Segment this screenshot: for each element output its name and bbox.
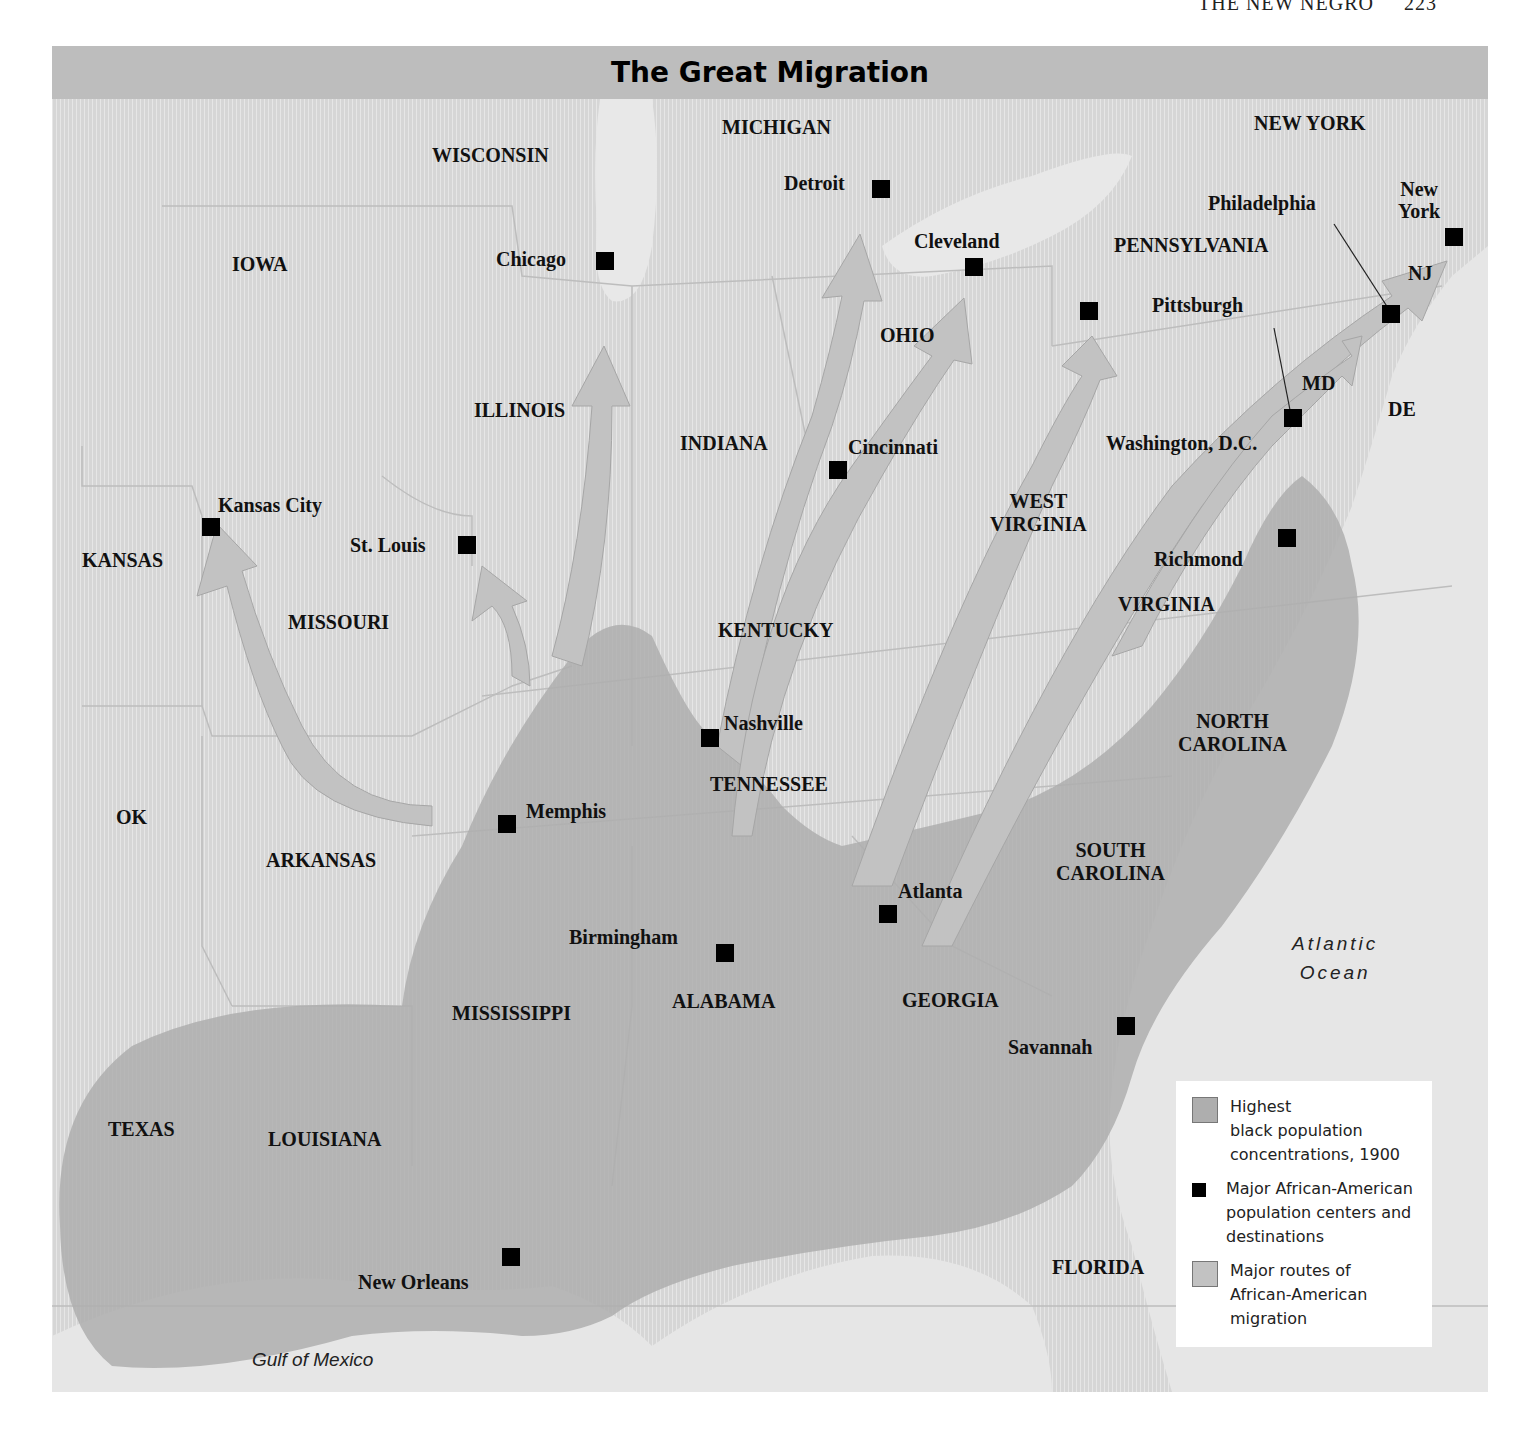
city-marker-richmond bbox=[1278, 529, 1296, 547]
city-label-chicago: Chicago bbox=[496, 248, 566, 271]
city-marker-cleveland bbox=[965, 258, 983, 276]
city-marker-new-york bbox=[1445, 228, 1463, 246]
running-head: THE NEW NEGRO223 bbox=[1198, 0, 1437, 15]
city-marker-memphis bbox=[498, 815, 516, 833]
map-figure: The Great Migration bbox=[52, 46, 1488, 1392]
concentration-swatch-icon bbox=[1192, 1097, 1218, 1123]
city-marker-pittsburgh bbox=[1080, 302, 1098, 320]
city-marker-st-louis bbox=[458, 536, 476, 554]
city-label-kansas-city: Kansas City bbox=[218, 494, 322, 517]
city-marker-atlanta bbox=[879, 905, 897, 923]
legend-label-routes: Major routes of African-American migrati… bbox=[1230, 1259, 1367, 1331]
city-label-atlanta: Atlanta bbox=[898, 880, 962, 903]
gulf-of-mexico-label: Gulf of Mexico bbox=[252, 1346, 373, 1375]
page-number: 223 bbox=[1404, 0, 1437, 14]
city-label-nashville: Nashville bbox=[724, 712, 803, 735]
city-label-savannah: Savannah bbox=[1008, 1036, 1093, 1059]
city-label-detroit: Detroit bbox=[784, 172, 845, 195]
running-head-title: THE NEW NEGRO bbox=[1198, 0, 1374, 14]
city-marker-washington-dc bbox=[1284, 409, 1302, 427]
city-label-new-orleans: New Orleans bbox=[358, 1271, 469, 1294]
city-label-philadelphia: Philadelphia bbox=[1208, 192, 1316, 215]
city-label-richmond: Richmond bbox=[1154, 548, 1243, 571]
city-marker-new-orleans bbox=[502, 1248, 520, 1266]
city-marker-philadelphia bbox=[1382, 305, 1400, 323]
legend: Highest black population concentrations,… bbox=[1176, 1081, 1432, 1347]
city-marker-nashville bbox=[701, 729, 719, 747]
route-swatch-icon bbox=[1192, 1261, 1218, 1287]
city-label-pittsburgh: Pittsburgh bbox=[1152, 294, 1243, 317]
city-marker-savannah bbox=[1117, 1017, 1135, 1035]
city-marker-cincinnati bbox=[829, 461, 847, 479]
city-marker-birmingham bbox=[716, 944, 734, 962]
atlantic-ocean-label: Atlantic Ocean bbox=[1292, 930, 1378, 987]
city-marker-detroit bbox=[872, 180, 890, 198]
city-label-new-york: New York bbox=[1398, 178, 1440, 222]
city-label-cleveland: Cleveland bbox=[914, 230, 1000, 253]
city-marker-kansas-city bbox=[202, 518, 220, 536]
legend-item-routes: Major routes of African-American migrati… bbox=[1192, 1259, 1367, 1331]
city-label-birmingham: Birmingham bbox=[569, 926, 678, 949]
city-label-washington-dc: Washington, D.C. bbox=[1106, 432, 1257, 455]
city-label-memphis: Memphis bbox=[526, 800, 606, 823]
legend-label-concentration: Highest black population concentrations,… bbox=[1230, 1095, 1400, 1167]
city-label-st-louis: St. Louis bbox=[350, 534, 426, 557]
city-marker-chicago bbox=[596, 252, 614, 270]
city-square-icon bbox=[1192, 1183, 1206, 1197]
city-label-cincinnati: Cincinnati bbox=[848, 436, 938, 459]
legend-item-population-centers: Major African-American population center… bbox=[1182, 1177, 1413, 1249]
legend-label-population-centers: Major African-American population center… bbox=[1226, 1177, 1413, 1249]
legend-item-concentration: Highest black population concentrations,… bbox=[1192, 1095, 1400, 1167]
